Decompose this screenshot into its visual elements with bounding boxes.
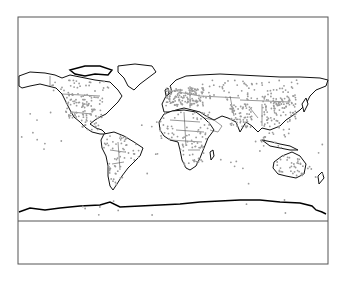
station-dot [176,104,178,106]
station-dot [187,141,189,143]
station-dot [108,166,110,168]
station-dot [128,152,130,154]
station-dot [285,212,287,214]
station-dot [266,99,268,101]
station-dot [181,104,183,106]
station-dot [270,90,272,92]
station-dot [245,123,247,125]
station-dot [263,125,265,127]
station-dot [66,97,68,99]
station-dot [91,97,93,99]
station-dot [289,120,291,122]
station-dot [264,136,266,138]
station-dot [113,178,115,180]
station-dot [84,94,86,96]
station-dot [167,128,169,130]
station-dot [187,99,189,101]
station-dot [250,107,252,109]
station-dot [250,126,252,128]
station-dot [205,132,207,134]
station-dot [302,173,304,175]
station-dot [237,95,239,97]
station-dot [180,96,182,98]
station-dot [281,88,283,90]
station-dot [134,153,136,155]
station-dot [236,125,238,127]
station-dot [110,178,112,180]
station-dot [177,136,179,138]
station-dot [213,84,215,86]
station-dot [104,143,106,145]
station-dot [247,116,249,118]
station-dot [167,101,169,103]
station-dot [289,104,291,106]
station-dot [123,136,125,138]
station-dot [98,214,100,216]
station-dot [85,121,87,123]
station-dot [242,80,244,82]
station-dot [207,127,209,129]
station-dot [247,99,249,101]
station-dot [172,128,174,130]
station-dot [276,164,278,166]
station-dot [227,99,229,101]
station-dot [102,89,104,91]
station-dot [246,119,248,121]
station-dot [126,144,128,146]
station-dot [249,106,251,108]
station-dot [209,95,211,97]
station-dot [95,126,97,128]
station-dot [235,161,237,163]
station-dot [189,94,191,96]
station-dot [94,123,96,125]
station-dot [251,83,253,85]
station-dot [183,95,185,97]
station-dot [230,104,232,106]
station-dot [288,100,290,102]
station-dot [101,101,103,103]
station-dot [223,84,225,86]
station-dot [293,166,295,168]
station-dot [184,101,186,103]
station-dot [121,137,123,139]
station-dot [120,166,122,168]
station-dot [175,96,177,98]
station-dot [198,97,200,99]
station-dot [151,214,153,216]
station-dot [182,144,184,146]
station-dot [73,80,75,82]
station-dot [195,145,197,147]
station-dot [276,161,278,163]
station-dot [262,96,264,98]
station-dot [275,113,277,115]
station-dot [112,180,114,182]
station-dot [44,143,46,145]
station-dot [199,147,201,149]
station-dot [69,80,71,82]
station-dot [65,111,67,113]
station-dot [36,139,38,141]
station-dot [203,152,205,154]
station-dot [274,141,276,143]
station-dot [268,132,270,134]
station-dot [87,129,89,131]
station-dot [186,135,188,137]
station-dot [202,83,204,85]
station-dot [170,92,172,94]
station-dot [70,115,72,117]
station-dot [160,135,162,137]
station-dot [193,161,195,163]
station-dot [251,119,253,121]
station-dot [133,159,135,161]
station-dot [109,168,111,170]
station-dot [169,96,171,98]
station-dot [109,172,111,174]
station-dot [203,112,205,114]
station-dot [67,92,69,94]
station-dot [235,106,237,108]
station-dot [186,96,188,98]
station-dot [227,80,229,82]
station-dot [268,81,270,83]
station-dot [83,99,85,101]
station-dot [280,167,282,169]
